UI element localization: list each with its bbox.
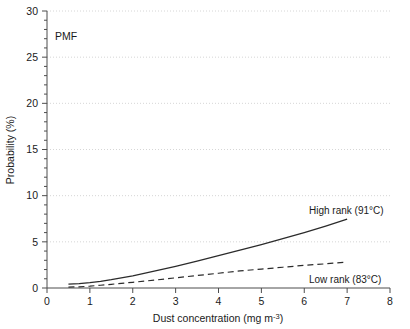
probability-line-chart: 051015202530 012345678 PMF High rank (91… [0,0,410,329]
chart-figure: 051015202530 012345678 PMF High rank (91… [0,0,410,329]
x-axis-ticks [47,288,390,293]
y-tick-label: 10 [26,189,38,201]
y-axis-tick-labels: 051015202530 [26,5,38,294]
x-tick-label: 5 [258,295,264,307]
x-tick-label: 4 [216,295,222,307]
x-tick-label: 0 [44,295,50,307]
pmf-annotation: PMF [55,30,77,42]
y-tick-label: 15 [26,143,38,155]
y-axis-ticks [42,11,47,288]
y-tick-label: 25 [26,51,38,63]
y-tick-label: 20 [26,97,38,109]
x-tick-label: 6 [301,295,307,307]
y-tick-label: 5 [32,236,38,248]
x-tick-label: 8 [387,295,393,307]
y-axis-title: Probability (%) [4,116,16,184]
series-label-low-rank: Low rank (83°C) [309,274,381,285]
series-label-high-rank: High rank (91°C) [309,205,384,216]
x-tick-label: 2 [130,295,136,307]
x-axis-title: Dust concentration (mg m-3) [153,312,283,324]
y-tick-label: 30 [26,5,38,17]
x-tick-label: 1 [87,295,93,307]
x-tick-label: 3 [173,295,179,307]
x-axis-tick-labels: 012345678 [44,295,393,307]
y-tick-label: 0 [32,282,38,294]
x-tick-label: 7 [344,295,350,307]
